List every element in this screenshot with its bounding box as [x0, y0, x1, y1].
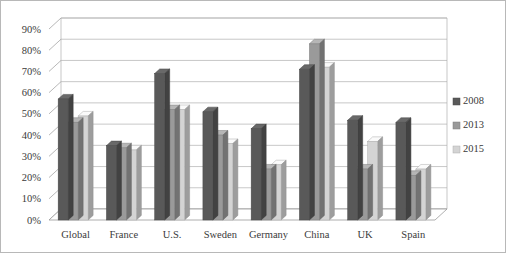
bar: [106, 141, 121, 220]
x-tick-label: France: [109, 229, 138, 240]
y-tick-label: 10%: [22, 193, 42, 204]
legend-label: 2013: [463, 119, 484, 130]
bar: [203, 107, 218, 220]
y-tick-label: 30%: [22, 151, 42, 162]
y-tick-label: 40%: [22, 130, 42, 141]
bar-chart: 0%10%20%30%40%50%60%70%80%90%GlobalFranc…: [1, 1, 506, 253]
bar: [299, 65, 314, 220]
bar: [251, 124, 266, 220]
bar: [396, 118, 411, 220]
bar: [155, 69, 170, 220]
legend-item[interactable]: 2015: [453, 143, 484, 154]
y-tick-label: 0%: [27, 215, 41, 226]
x-tick-label: U.S.: [163, 229, 182, 240]
y-tick-label: 60%: [22, 87, 42, 98]
y-tick-label: 90%: [22, 24, 42, 35]
x-tick-label: Global: [61, 229, 90, 240]
legend-swatch: [453, 98, 460, 105]
legend: 200820132015: [453, 95, 484, 154]
legend-label: 2008: [463, 95, 484, 106]
legend-label: 2015: [463, 143, 484, 154]
chart-figure: 0%10%20%30%40%50%60%70%80%90%GlobalFranc…: [0, 0, 506, 253]
legend-item[interactable]: 2013: [453, 119, 484, 130]
y-axis-labels: 0%10%20%30%40%50%60%70%80%90%: [22, 24, 42, 226]
x-tick-label: Sweden: [204, 229, 238, 240]
legend-swatch: [453, 146, 460, 153]
x-axis-labels: GlobalFranceU.S.SwedenGermanyChinaUKSpai…: [61, 229, 426, 240]
y-tick-label: 20%: [22, 172, 42, 183]
x-tick-label: China: [304, 229, 329, 240]
legend-swatch: [453, 122, 460, 129]
bar: [58, 94, 73, 220]
x-tick-label: UK: [357, 229, 373, 240]
y-tick-label: 70%: [22, 66, 42, 77]
y-tick-label: 80%: [22, 45, 42, 56]
legend-item[interactable]: 2008: [453, 95, 484, 106]
y-tick-label: 50%: [22, 108, 42, 119]
x-tick-label: Spain: [401, 229, 426, 240]
x-tick-label: Germany: [249, 229, 289, 240]
bar: [348, 116, 363, 220]
